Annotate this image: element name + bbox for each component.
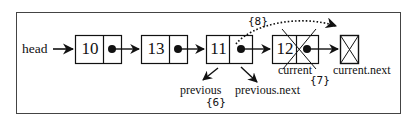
step-8-label: {8} xyxy=(248,16,268,27)
previous-arrow xyxy=(203,68,218,80)
step-6-label: {6} xyxy=(206,97,226,108)
null-node-icon xyxy=(341,36,359,64)
node-value: 13 xyxy=(142,35,170,63)
step-7-label: {7} xyxy=(310,75,330,86)
linked-list-diagram: 10 13 11 12 head previous previous.next … xyxy=(0,0,413,121)
head-label: head xyxy=(22,42,47,56)
node-value: 10 xyxy=(76,35,104,63)
node-value: 11 xyxy=(207,35,230,63)
node-value: 12 xyxy=(273,35,297,63)
previous-next-arrow xyxy=(241,67,257,82)
previous-label: previous xyxy=(180,84,221,96)
previous-next-label: previous.next xyxy=(235,84,300,96)
current-label: current xyxy=(278,64,312,76)
current-next-label: current.next xyxy=(333,64,391,76)
